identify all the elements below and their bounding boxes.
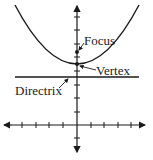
directrix-label: Directrix <box>15 83 62 98</box>
focus-point <box>75 50 79 54</box>
x-axis <box>4 122 145 128</box>
vertex-label: Vertex <box>96 63 130 78</box>
vertex-point <box>75 62 79 66</box>
parabola-diagram: Focus Vertex Directrix <box>0 0 153 160</box>
focus-label: Focus <box>84 33 115 48</box>
y-axis <box>74 6 80 152</box>
vertex-pointer-arrow <box>80 66 96 70</box>
